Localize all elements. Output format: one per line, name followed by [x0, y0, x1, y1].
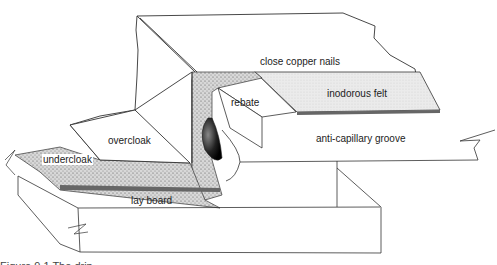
label-anti-capillary-groove: anti-capillary groove [316, 133, 406, 144]
figure-caption: Figure 9.1 The drip [0, 259, 93, 265]
label-rebate: rebate [231, 97, 259, 108]
label-undercloak: undercloak [42, 154, 93, 165]
label-close-copper-nails: close copper nails [260, 56, 340, 67]
drip-joint-diagram: close copper nails rebate inodorous felt… [0, 0, 497, 265]
label-inodorous-felt: inodorous felt [327, 88, 387, 99]
label-lay-board: lay board [131, 195, 172, 206]
label-overcloak: overcloak [108, 135, 151, 146]
diagram-drawing [0, 0, 497, 265]
